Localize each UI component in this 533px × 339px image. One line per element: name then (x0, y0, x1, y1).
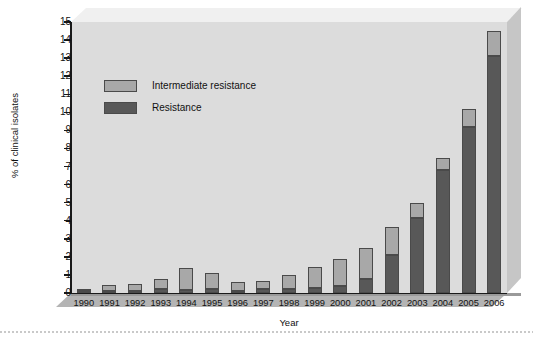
x-axis-tick-label: 2006 (478, 298, 510, 308)
bar-segment-intermediate-resistance (128, 284, 142, 291)
bar-segment-intermediate-resistance (436, 158, 450, 171)
bar-segment-intermediate-resistance (410, 203, 424, 218)
bar-group[interactable] (128, 22, 142, 293)
bar-segment-intermediate-resistance (462, 109, 476, 127)
y-axis-tick-label-text: 2 (21, 252, 71, 262)
y-axis-title: % of clinical isolates (9, 66, 20, 206)
plot-area-top-face (71, 8, 522, 22)
bar-group[interactable] (77, 22, 91, 293)
y-axis-tick-label-text: 9 (21, 125, 71, 135)
y-axis-tick-label-text: 6 (21, 180, 71, 190)
bar-group[interactable] (102, 22, 116, 293)
bar-group[interactable] (256, 22, 270, 293)
y-axis-tick-label-text: 7 (21, 162, 71, 172)
bar-group[interactable] (333, 22, 347, 293)
bar-segment-intermediate-resistance (77, 289, 91, 291)
bar-segment-intermediate-resistance (102, 285, 116, 291)
bar-segment-resistance (436, 170, 450, 293)
y-axis-tick-label-text: 8 (21, 143, 71, 153)
bar-segment-resistance (385, 255, 399, 293)
legend-label-resistance: Resistance (152, 101, 201, 114)
bar-segment-intermediate-resistance (308, 267, 322, 288)
bottom-divider (0, 331, 533, 333)
y-axis-tick-label-text: 15 (21, 17, 71, 27)
y-axis-tick-label-text: 10 (21, 107, 71, 117)
y-axis-tick-label: 1 (8, 270, 71, 280)
bar-group[interactable] (205, 22, 219, 293)
y-axis-tick-label-text: 12 (21, 71, 71, 81)
y-axis-tick-label: 3 (8, 234, 71, 244)
y-axis-tick-label: 13 (8, 53, 71, 63)
bar-segment-intermediate-resistance (205, 273, 219, 289)
bar-group[interactable] (462, 22, 476, 293)
bar-group[interactable] (282, 22, 296, 293)
bar-group[interactable] (410, 22, 424, 293)
bar-segment-resistance (487, 56, 501, 293)
bar-group[interactable] (359, 22, 373, 293)
bar-segment-resistance (462, 127, 476, 293)
chart-figure: 0123456789101112131415 19901991199219931… (0, 0, 533, 339)
bar-segment-intermediate-resistance (282, 275, 296, 289)
legend-label-intermediate-resistance: Intermediate resistance (152, 79, 256, 92)
y-axis-tick-label: 2 (8, 252, 71, 262)
bar-group[interactable] (231, 22, 245, 293)
y-axis-tick-label: 4 (8, 216, 71, 226)
x-axis-line (70, 293, 507, 295)
bar-segment-intermediate-resistance (179, 268, 193, 291)
bar-group[interactable] (436, 22, 450, 293)
plot-area-right-face (507, 7, 521, 293)
bar-segment-resistance (359, 279, 373, 293)
bar-group[interactable] (487, 22, 501, 293)
y-axis-tick-label-text: 13 (21, 53, 71, 63)
y-axis-tick-label-text: 4 (21, 216, 71, 226)
bar-group[interactable] (179, 22, 193, 293)
bar-group[interactable] (154, 22, 168, 293)
y-axis-tick-label-text: 0 (21, 288, 71, 298)
bar-group[interactable] (308, 22, 322, 293)
bar-segment-intermediate-resistance (359, 248, 373, 279)
bar-segment-resistance (410, 218, 424, 293)
bar-segment-intermediate-resistance (385, 227, 399, 255)
y-axis-tick-label: 0 (8, 288, 71, 298)
bar-segment-intermediate-resistance (154, 279, 168, 290)
x-axis-title: Year (71, 317, 507, 328)
y-axis-tick-label-text: 3 (21, 234, 71, 244)
bar-series-layer (71, 22, 507, 293)
y-axis-tick-label: 14 (8, 35, 71, 45)
bar-segment-intermediate-resistance (487, 31, 501, 56)
legend-swatch-intermediate-resistance (104, 80, 137, 92)
legend-swatch-resistance (104, 102, 137, 114)
bar-group[interactable] (385, 22, 399, 293)
y-axis-tick-label-text: 14 (21, 35, 71, 45)
bar-segment-intermediate-resistance (256, 281, 270, 289)
y-axis-tick-label-text: 5 (21, 198, 71, 208)
bar-segment-intermediate-resistance (231, 282, 245, 291)
y-axis-tick-label: 15 (8, 17, 71, 27)
y-axis-tick-label-text: 1 (21, 270, 71, 280)
bar-segment-intermediate-resistance (333, 259, 347, 286)
y-axis-tick-label-text: 11 (21, 89, 71, 99)
